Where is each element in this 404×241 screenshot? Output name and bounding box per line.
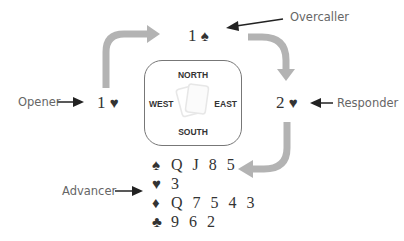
hand-row-hearts: ♥3: [152, 175, 182, 193]
label-advancer: Advancer: [62, 184, 116, 198]
diamond-icon: ♦: [152, 195, 171, 212]
hand-row-spades: ♠Q J 8 5: [152, 156, 238, 174]
spade-icon: ♠: [201, 28, 209, 44]
label-overcaller: Overcaller: [290, 10, 349, 24]
diamond-cards: Q 7 5 4 3: [171, 194, 258, 211]
club-cards: 9 6 2: [171, 213, 218, 230]
club-icon: ♣: [152, 214, 171, 231]
flow-arrow-responder-to-advancer: [252, 122, 287, 169]
pointer-arrow-overcaller: [236, 19, 283, 26]
direction-east: EAST: [214, 99, 237, 109]
bid-level: 2: [276, 93, 285, 112]
bid-responder: 2 ♥: [276, 93, 298, 113]
heart-icon: ♥: [110, 95, 119, 111]
hand-row-diamonds: ♦Q 7 5 4 3: [152, 194, 258, 212]
spade-cards: Q J 8 5: [171, 156, 238, 173]
flow-arrowhead-1: [147, 25, 160, 43]
flow-arrowhead-2: [277, 69, 295, 81]
direction-west: WEST: [149, 99, 174, 109]
direction-north: NORTH: [145, 70, 241, 80]
heart-cards: 3: [171, 175, 182, 192]
bid-level: 1: [188, 26, 197, 45]
bridge-table: NORTH SOUTH WEST EAST: [144, 60, 242, 146]
spade-icon: ♠: [152, 157, 171, 174]
flow-arrow-overcaller-to-responder: [248, 37, 286, 70]
heart-icon: ♥: [289, 95, 298, 111]
flow-arrow-opener-to-overcaller: [106, 34, 148, 88]
advancer-hand: ♠Q J 8 5 ♥3 ♦Q 7 5 4 3 ♣9 6 2: [152, 156, 252, 240]
bid-level: 1: [97, 93, 106, 112]
direction-south: SOUTH: [145, 127, 241, 137]
heart-icon: ♥: [152, 176, 171, 193]
bid-opener: 1 ♥: [97, 93, 119, 113]
bid-overcaller: 1 ♠: [188, 26, 209, 46]
hand-row-clubs: ♣9 6 2: [152, 213, 218, 231]
label-responder: Responder: [337, 96, 398, 110]
label-opener: Opener: [18, 95, 61, 109]
